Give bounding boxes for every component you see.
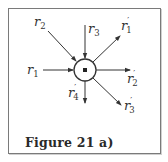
- label-r3: r3: [88, 21, 100, 38]
- label-r4-prime: r′4: [68, 83, 79, 102]
- label-r1-prime: r′1: [121, 16, 132, 35]
- arrow-r3-prime: [93, 78, 121, 105]
- arrow-r2: [48, 31, 76, 61]
- arrow-r1-prime: [93, 36, 120, 62]
- label-r2: r2: [34, 14, 46, 31]
- figure-caption: Figure 21 a): [25, 135, 114, 150]
- label-r1: r1: [27, 62, 39, 79]
- figure-canvas: r2 r3 r1 r′1 r′2 r′3 r′4 Figure 21 a): [0, 0, 168, 162]
- label-r2-prime: r′2: [127, 69, 138, 88]
- label-r3-prime: r′3: [124, 96, 135, 115]
- central-node: [74, 59, 96, 81]
